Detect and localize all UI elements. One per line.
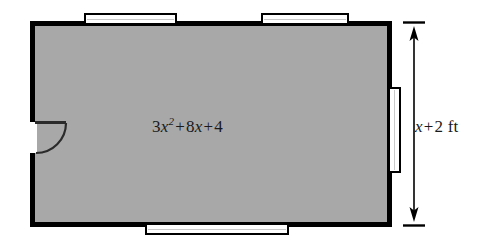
area-constant: 4: [214, 117, 223, 136]
height-variable: x: [415, 117, 423, 136]
left-door-opening: [28, 122, 37, 153]
wall-left-lower: [30, 152, 35, 227]
area-coefficient-quadratic: 3: [152, 117, 161, 136]
floor-plan-figure: 3x2+8x+4 x+2 ft: [0, 0, 501, 252]
height-unit: ft: [448, 117, 459, 136]
area-operator-2: +: [202, 117, 214, 136]
area-expression-label: 3x2+8x+4: [152, 118, 223, 135]
top-window-right: [262, 14, 348, 24]
right-window: [389, 88, 400, 172]
wall-left-upper: [30, 21, 35, 123]
left-door-leaf: [35, 121, 66, 124]
area-coefficient-linear: 8: [186, 117, 195, 136]
height-dimension-label: x+2 ft: [415, 118, 459, 135]
height-operator: +: [423, 117, 435, 136]
height-constant: 2: [435, 117, 444, 136]
top-window-left: [85, 14, 176, 24]
bottom-window: [146, 224, 288, 234]
area-operator-1: +: [174, 117, 186, 136]
